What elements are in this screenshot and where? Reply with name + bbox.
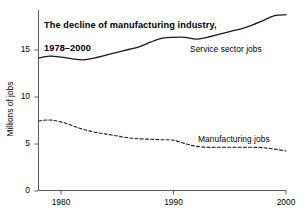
x-tick-label: 1990	[154, 197, 194, 207]
x-axis-ticks	[61, 191, 286, 195]
series-annotation-service-sector: Service sector jobs	[190, 44, 262, 54]
y-axis-ticks	[35, 50, 39, 191]
y-tick-label: 15	[8, 44, 30, 54]
x-tick-label: 2000	[266, 197, 306, 207]
chart-title-line2: 1978–2000	[44, 43, 91, 53]
chart-container: The decline of manufacturing industry, 1…	[0, 0, 308, 215]
series-annotation-manufacturing: Manufacturing jobs	[198, 134, 270, 144]
x-tick-label: 1980	[41, 197, 81, 207]
y-tick-label: 5	[8, 138, 30, 148]
chart-title-line1: The decline of manufacturing industry,	[44, 20, 217, 30]
y-tick-label: 10	[8, 91, 30, 101]
y-tick-label: 0	[8, 185, 30, 195]
